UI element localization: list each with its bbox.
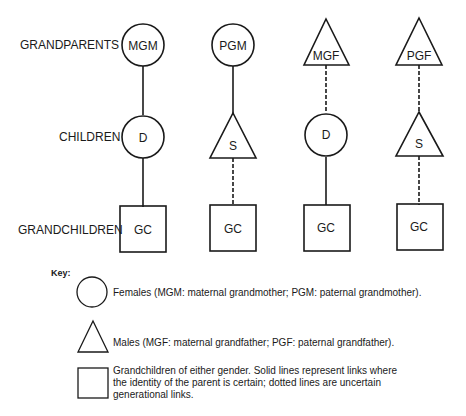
row-label-grandchildren: GRANDCHILDREN <box>18 223 123 237</box>
key-males-text: Males (MGF: maternal grandfather; PGF: p… <box>113 337 394 349</box>
key-circle-icon <box>77 277 107 307</box>
key-grandchildren-line: the identity of the parent is certain; d… <box>113 377 397 389</box>
node-label: GC <box>134 223 152 237</box>
node-label: GC <box>317 221 335 235</box>
key-grandchildren-line: generational links. <box>113 389 397 401</box>
key-triangle-icon <box>78 321 108 352</box>
node-label: GC <box>410 220 428 234</box>
key-title: Key: <box>51 268 71 278</box>
key-square-icon <box>78 368 108 398</box>
node-label: D <box>139 131 148 145</box>
node-label: S <box>415 137 423 151</box>
key-grandchildren-line: Grandchildren of either gender. Solid li… <box>113 365 397 377</box>
node-label: MGM <box>128 39 157 53</box>
row-label-grandparents: GRANDPARENTS <box>20 38 119 52</box>
node-label: S <box>229 139 237 153</box>
key-females-text: Females (MGM: maternal grandmother; PGM:… <box>113 287 421 299</box>
row-label-children: CHILDREN <box>59 130 120 144</box>
node-label: MGF <box>313 49 340 63</box>
node-label: PGF <box>407 49 432 63</box>
node-label: PGM <box>219 39 246 53</box>
key-grandchildren-text: Grandchildren of either gender. Solid li… <box>113 365 397 401</box>
kinship-diagram: MGM D GC PGM S GC MGF D GC PGF S GC <box>0 0 466 416</box>
node-label: GC <box>224 222 242 236</box>
node-label: D <box>322 128 331 142</box>
